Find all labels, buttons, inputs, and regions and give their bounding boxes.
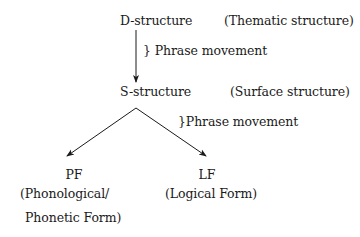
lf-label: LF — [199, 168, 216, 182]
phonetic-form-gloss-line2: Phonetic Form) — [25, 211, 121, 225]
d-structure-label: D-structure — [120, 14, 192, 28]
phrase-movement-label-2: }Phrase movement — [178, 115, 298, 129]
thematic-structure-gloss: (Thematic structure) — [224, 14, 354, 28]
s-structure-label: S-structure — [120, 85, 191, 99]
phrase-movement-label-1: } Phrase movement — [143, 44, 267, 58]
surface-structure-gloss: (Surface structure) — [230, 85, 350, 99]
logical-form-gloss: (Logical Form) — [165, 187, 257, 201]
phonological-gloss-line1: (Phonological/ — [20, 187, 109, 201]
pf-label: PF — [66, 168, 83, 182]
arrow-s-to-pf — [67, 108, 136, 156]
